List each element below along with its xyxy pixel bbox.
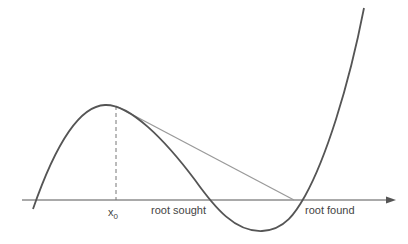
function-curve: [33, 8, 364, 231]
newton-method-diagram: x0 root sought root found: [0, 0, 408, 244]
root-found-label: root found: [305, 204, 355, 216]
x0-label: x0: [108, 206, 119, 221]
root-sought-label: root sought: [151, 204, 206, 216]
x-axis-arrowhead: [386, 197, 396, 204]
tangent-line: [116, 106, 294, 200]
